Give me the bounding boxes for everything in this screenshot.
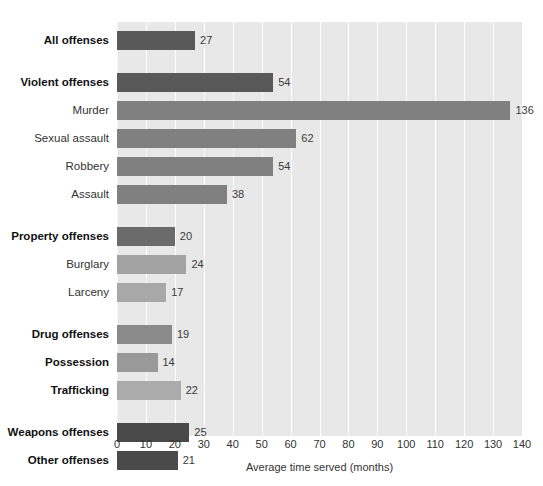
category-labels: All offensesViolent offensesMurderSexual… — [0, 22, 113, 436]
bar-value-label: 20 — [175, 227, 192, 246]
category-label-violent-offenses: Violent offenses — [0, 73, 113, 92]
category-label-all-offenses: All offenses — [0, 31, 113, 50]
x-tick-label-0: 0 — [114, 438, 120, 450]
x-tick-label-30: 30 — [198, 438, 210, 450]
category-label-larceny: Larceny — [0, 283, 113, 302]
x-tick-label-120: 120 — [455, 438, 473, 450]
x-tick-label-10: 10 — [140, 438, 152, 450]
category-label-sexual-assault: Sexual assault — [0, 129, 113, 148]
bar-robbery — [117, 157, 273, 176]
bar-value-label: 24 — [186, 255, 203, 274]
bar-chart: 27541366254382024171914222521 All offens… — [0, 0, 543, 486]
x-tick-label-110: 110 — [426, 438, 444, 450]
bar-value-label: 136 — [510, 101, 533, 120]
bar-value-label: 22 — [181, 381, 198, 400]
bar-sexual-assault — [117, 129, 296, 148]
x-tick-label-40: 40 — [227, 438, 239, 450]
bar-murder — [117, 101, 510, 120]
bar-value-label: 38 — [227, 185, 244, 204]
x-axis-title: Average time served (months) — [117, 461, 522, 473]
category-label-drug-offenses: Drug offenses — [0, 325, 113, 344]
category-label-murder: Murder — [0, 101, 113, 120]
bar-burglary — [117, 255, 186, 274]
bar-value-label: 19 — [172, 325, 189, 344]
category-label-possession: Possession — [0, 353, 113, 372]
bar-value-label: 54 — [273, 73, 290, 92]
bar-all-offenses — [117, 31, 195, 50]
bar-value-label: 14 — [158, 353, 175, 372]
bar-trafficking — [117, 381, 181, 400]
bar-value-label: 27 — [195, 31, 212, 50]
bar-violent-offenses — [117, 73, 273, 92]
x-tick-label-20: 20 — [169, 438, 181, 450]
x-tick-label-90: 90 — [371, 438, 383, 450]
category-label-other-offenses: Other offenses — [0, 451, 113, 470]
bar-possession — [117, 353, 158, 372]
x-tick-label-70: 70 — [313, 438, 325, 450]
category-label-assault: Assault — [0, 185, 113, 204]
bar-value-label: 62 — [296, 129, 313, 148]
x-tick-label-130: 130 — [484, 438, 502, 450]
bar-value-label: 17 — [166, 283, 183, 302]
x-tick-label-100: 100 — [397, 438, 415, 450]
bar-assault — [117, 185, 227, 204]
gridline-140 — [522, 22, 523, 436]
x-tick-label-50: 50 — [256, 438, 268, 450]
bar-value-label: 54 — [273, 157, 290, 176]
category-label-robbery: Robbery — [0, 157, 113, 176]
category-label-trafficking: Trafficking — [0, 381, 113, 400]
bars-layer: 27541366254382024171914222521 — [117, 22, 522, 436]
bar-drug-offenses — [117, 325, 172, 344]
x-tick-label-80: 80 — [342, 438, 354, 450]
x-axis-ticks: 0102030405060708090100110120130140 — [117, 438, 522, 456]
category-label-weapons-offenses: Weapons offenses — [0, 423, 113, 442]
x-tick-label-60: 60 — [284, 438, 296, 450]
bar-property-offenses — [117, 227, 175, 246]
plot-area: 27541366254382024171914222521 — [117, 22, 522, 436]
category-label-property-offenses: Property offenses — [0, 227, 113, 246]
category-label-burglary: Burglary — [0, 255, 113, 274]
x-tick-label-140: 140 — [513, 438, 531, 450]
bar-larceny — [117, 283, 166, 302]
